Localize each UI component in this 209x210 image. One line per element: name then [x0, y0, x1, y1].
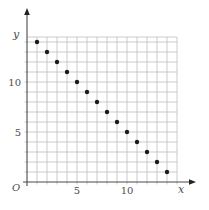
data-point: [75, 80, 79, 84]
y-axis-label: y: [13, 29, 19, 40]
origin-label: O: [12, 182, 20, 193]
x-tick-label: 10: [121, 185, 134, 196]
data-point: [135, 140, 139, 144]
data-point: [155, 160, 159, 164]
scatter-plot-figure: 510510 y x O: [0, 0, 209, 210]
data-point: [85, 90, 89, 94]
data-point: [115, 120, 119, 124]
x-tick-label: 5: [74, 185, 80, 196]
data-point: [105, 110, 109, 114]
data-point: [65, 70, 69, 74]
data-point: [45, 50, 49, 54]
data-point: [35, 40, 39, 44]
y-tick-label: 5: [15, 127, 21, 138]
x-axis-label: x: [178, 184, 184, 195]
plot-canvas: 510510: [0, 0, 209, 210]
data-point: [165, 170, 169, 174]
data-point: [95, 100, 99, 104]
y-tick-label: 10: [8, 77, 21, 88]
x-axis-arrow-icon: [189, 179, 196, 185]
data-point: [55, 60, 59, 64]
data-point: [125, 130, 129, 134]
y-axis-arrow-icon: [24, 8, 30, 15]
data-point: [145, 150, 149, 154]
